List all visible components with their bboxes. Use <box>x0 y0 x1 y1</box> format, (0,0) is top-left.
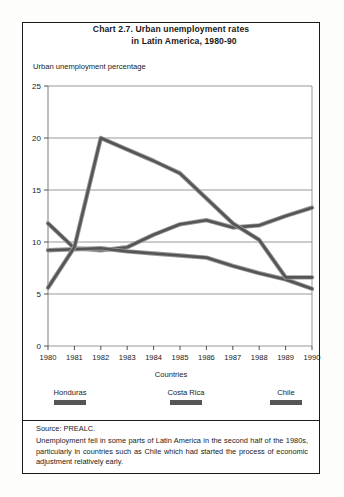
legend-item-honduras: Honduras <box>30 388 110 405</box>
legend-swatch-costa-rica <box>170 400 202 405</box>
legend-label-honduras: Honduras <box>30 388 110 397</box>
x-tick-label: 1990 <box>304 353 321 362</box>
legend-swatch-honduras <box>54 400 86 405</box>
x-tick-label: 1981 <box>66 353 83 362</box>
x-tick-label: 1980 <box>40 353 57 362</box>
y-tick-label: 5 <box>37 290 42 299</box>
chart-notes: Source: PREALC. Unemployment fell in som… <box>36 424 308 468</box>
legend-swatch-chile <box>270 400 302 405</box>
y-tick-label: 20 <box>32 134 41 143</box>
x-tick-label: 1982 <box>92 353 109 362</box>
y-tick-label: 25 <box>32 82 41 91</box>
chart-legend: Honduras Costa Rica Chile <box>22 388 320 414</box>
x-tick-label: 1989 <box>277 353 294 362</box>
x-tick-label: 1985 <box>172 353 189 362</box>
note-text: Unemployment fell in some parts of Latin… <box>36 436 308 467</box>
x-tick-label: 1986 <box>198 353 215 362</box>
x-tick-label: 1984 <box>145 353 162 362</box>
x-tick-label: 1983 <box>119 353 136 362</box>
series-line-chile <box>48 138 312 288</box>
series-line-costa-rica <box>48 248 312 289</box>
legend-item-chile: Chile <box>258 388 314 405</box>
x-tick-label: 1987 <box>224 353 241 362</box>
legend-label-chile: Chile <box>258 388 314 397</box>
x-tick-label: 1988 <box>251 353 268 362</box>
series-line-honduras <box>48 208 312 251</box>
y-tick-label: 0 <box>37 342 42 351</box>
source-text: Source: PREALC. <box>36 424 308 434</box>
notes-divider <box>22 420 320 421</box>
chart-plot: 0510152025198019811982198319841985198619… <box>0 0 344 497</box>
y-tick-label: 15 <box>32 186 41 195</box>
y-tick-label: 10 <box>32 238 41 247</box>
series-line-halo-honduras <box>48 208 312 251</box>
x-axis-label: Countries <box>22 370 320 379</box>
legend-item-costa-rica: Costa Rica <box>146 388 226 405</box>
legend-label-costa-rica: Costa Rica <box>146 388 226 397</box>
series-line-halo-chile <box>48 138 312 288</box>
chart-page: Chart 2.7. Urban unemployment rates in L… <box>0 0 344 497</box>
